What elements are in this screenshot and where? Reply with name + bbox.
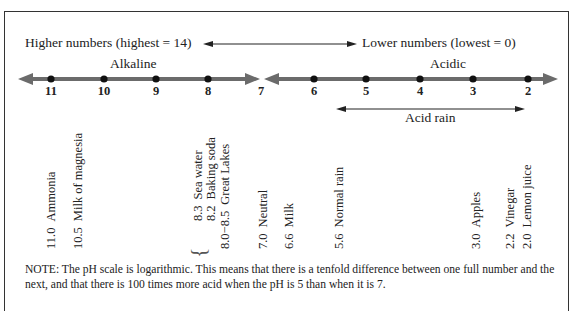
tick-7: 7 [258,84,264,99]
tick-5: 5 [363,84,369,99]
substance-lemon-juice: 2.0Lemon juice [521,165,534,249]
logarithmic-note: NOTE: The pH scale is logarithmic. This … [25,262,570,292]
substance-baking-soda: 8.2Baking soda [205,137,218,221]
substance-normal-rain: 5.6Normal rain [333,167,346,249]
direction-arrow [203,41,357,47]
lower-numbers-label: Lower numbers (lowest = 0) [362,35,516,51]
higher-numbers-label: Higher numbers (highest = 14) [25,35,192,51]
tick-3: 3 [470,84,476,99]
acid-rain-label: Acid rain [405,110,456,126]
acidic-label: Acidic [430,56,466,72]
substance-neutral: 7.0Neutral [257,190,270,249]
acidic-scale-line [264,73,558,85]
alkaline-label: Alkaline [110,56,157,72]
tick-11: 11 [45,84,57,99]
substance-milk: 6.6Milk [283,203,296,249]
tick-4: 4 [417,84,423,99]
brace-icon: { [185,247,211,258]
tick-8: 8 [205,84,211,99]
substance-vinegar: 2.2Vinegar [504,188,517,249]
tick-10: 10 [98,84,111,99]
substance-milk-of-magnesia: 10.5Milk of magnesia [72,133,85,249]
substance-ammonia: 11.0Ammonia [45,172,58,249]
tick-2: 2 [525,84,531,99]
substance-great-lakes: 8.0−8.5Great Lakes [219,144,232,249]
tick-9: 9 [153,84,159,99]
substance-apples: 3.0Apples [470,192,483,249]
tick-6: 6 [311,84,317,99]
